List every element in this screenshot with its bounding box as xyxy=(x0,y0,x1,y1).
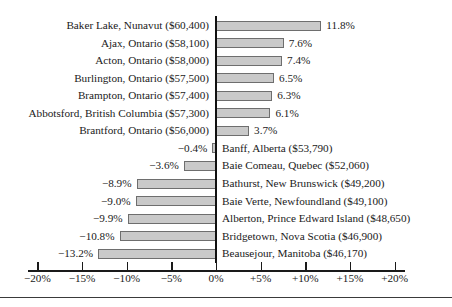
chart-row-value: 3.7% xyxy=(254,122,277,140)
chart-row: −0.4%Banff, Alberta ($53,790) xyxy=(0,140,452,158)
chart-row: −8.9%Bathurst, New Brunswick ($49,200) xyxy=(0,175,452,193)
chart-row-label: Alberton, Prince Edward Island ($48,650) xyxy=(222,210,410,228)
chart-row-value: 6.1% xyxy=(275,105,298,123)
chart-row-label: Baie Comeau, Quebec ($52,060) xyxy=(222,157,369,175)
chart-row-value: 6.3% xyxy=(277,87,300,105)
chart-bar xyxy=(216,126,249,136)
chart-row: Burlington, Ontario ($57,500)6.5% xyxy=(0,70,452,88)
chart-bar xyxy=(216,73,274,83)
chart-row-value: −9.0% xyxy=(0,193,131,211)
chart-bar xyxy=(216,38,284,48)
zero-axis-line xyxy=(215,16,217,263)
chart-bar xyxy=(184,161,216,171)
chart-row: Brampton, Ontario ($57,400)6.3% xyxy=(0,87,452,105)
chart-row: −9.0%Baie Verte, Newfoundland ($49,100) xyxy=(0,193,452,211)
x-axis-tick xyxy=(350,262,351,270)
chart-row-value: −0.4% xyxy=(0,140,207,158)
x-axis-tick xyxy=(216,260,217,270)
x-axis-tick xyxy=(127,262,128,270)
chart-row-label: Ajax, Ontario ($58,100) xyxy=(0,35,209,53)
chart-row-value: 7.6% xyxy=(289,35,312,53)
chart-row-label: Brampton, Ontario ($57,400) xyxy=(0,87,209,105)
chart-row-value: −13.2% xyxy=(0,245,93,263)
x-axis-tick xyxy=(82,262,83,270)
chart-row: −3.6%Baie Comeau, Quebec ($52,060) xyxy=(0,157,452,175)
chart-row-value: −8.9% xyxy=(0,175,132,193)
chart-row-label: Baie Verte, Newfoundland ($49,100) xyxy=(222,193,387,211)
chart-row: Ajax, Ontario ($58,100)7.6% xyxy=(0,35,452,53)
bottom-rule xyxy=(0,297,452,298)
chart-figure: Baker Lake, Nunavut ($60,400)11.8%Ajax, … xyxy=(0,0,452,307)
chart-row: Brantford, Ontario ($56,000)3.7% xyxy=(0,122,452,140)
chart-row-label: Baker Lake, Nunavut ($60,400) xyxy=(0,17,209,35)
chart-bar xyxy=(120,231,216,241)
chart-row-label: Abbotsford, British Columbia ($57,300) xyxy=(0,105,209,123)
chart-row: −13.2%Beausejour, Manitoba ($46,170) xyxy=(0,245,452,263)
chart-row-label: Bridgetown, Nova Scotia ($46,900) xyxy=(222,228,382,246)
chart-row-value: 11.8% xyxy=(326,17,354,35)
chart-bar xyxy=(216,56,282,66)
chart-bar xyxy=(216,21,321,31)
chart-title xyxy=(0,0,452,5)
chart-row-value: −9.9% xyxy=(0,210,123,228)
chart-row-label: Banff, Alberta ($53,790) xyxy=(222,140,332,158)
chart-row: −9.9%Alberton, Prince Edward Island ($48… xyxy=(0,210,452,228)
chart-bar xyxy=(216,91,272,101)
chart-bar xyxy=(136,196,216,206)
chart-bar xyxy=(216,108,270,118)
chart-bar xyxy=(128,214,216,224)
chart-row-label: Bathurst, New Brunswick ($49,200) xyxy=(222,175,385,193)
chart-row: Acton, Ontario ($58,000)7.4% xyxy=(0,52,452,70)
x-axis-tick xyxy=(305,262,306,270)
chart-row-value: 6.5% xyxy=(279,70,302,88)
chart-row-label: Burlington, Ontario ($57,500) xyxy=(0,70,209,88)
chart-row-label: Acton, Ontario ($58,000) xyxy=(0,52,209,70)
x-axis-tick xyxy=(171,262,172,270)
chart-row: Baker Lake, Nunavut ($60,400)11.8% xyxy=(0,17,452,35)
chart-row: Abbotsford, British Columbia ($57,300)6.… xyxy=(0,105,452,123)
chart-row-value: 7.4% xyxy=(287,52,310,70)
chart-row: −10.8%Bridgetown, Nova Scotia ($46,900) xyxy=(0,228,452,246)
x-axis-tick xyxy=(261,262,262,270)
plot-area: Baker Lake, Nunavut ($60,400)11.8%Ajax, … xyxy=(0,16,452,263)
chart-row-value: −10.8% xyxy=(0,228,115,246)
chart-row-value: −3.6% xyxy=(0,157,179,175)
x-axis-tick xyxy=(37,262,38,270)
chart-row-label: Beausejour, Manitoba ($46,170) xyxy=(222,245,367,263)
chart-row-label: Brantford, Ontario ($56,000) xyxy=(0,122,209,140)
chart-bar xyxy=(98,249,216,259)
x-axis-tick-label: +20% xyxy=(365,272,425,284)
chart-bar xyxy=(137,179,216,189)
x-axis-tick xyxy=(395,262,396,270)
